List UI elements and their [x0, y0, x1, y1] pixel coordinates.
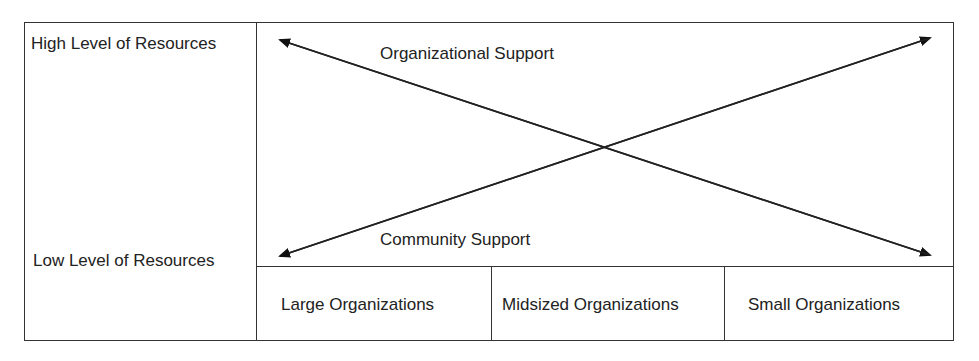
arrows-layer [0, 0, 979, 361]
